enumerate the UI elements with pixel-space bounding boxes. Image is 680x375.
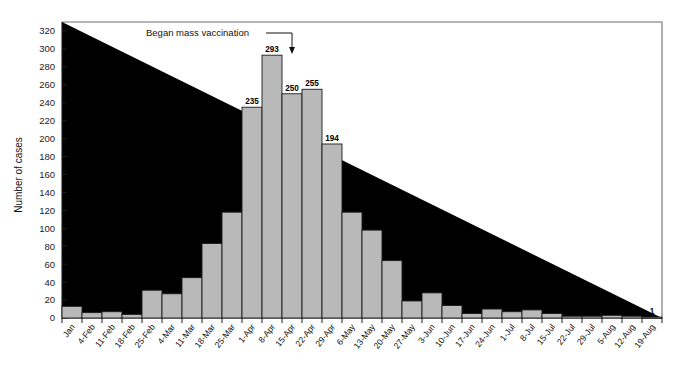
bar-value-label: 255	[305, 79, 319, 88]
bar	[182, 278, 202, 318]
x-axis-tick-labels: Jan4-Feb11-Feb18-Feb25-Feb4-Mar11-Mar18-…	[61, 322, 658, 351]
bar-value-label: 10	[487, 299, 497, 308]
bar	[542, 314, 562, 318]
bar-value-label: 45	[187, 268, 197, 277]
bar-value-label: 28	[427, 283, 437, 292]
bar	[142, 290, 162, 318]
bar-value-label: 83	[207, 234, 217, 243]
bar	[302, 89, 322, 318]
bar-value-label: 64	[387, 251, 397, 260]
bar-value-label: 250	[285, 84, 299, 93]
y-tick-label: 220	[39, 115, 55, 126]
bar-value-label: 7	[510, 302, 515, 311]
bar-value-label: 31	[147, 280, 157, 289]
bar-value-label: 2	[630, 306, 635, 315]
bar	[382, 261, 402, 318]
y-tick-label: 200	[39, 133, 55, 144]
y-tick-label: 160	[39, 169, 55, 180]
epidemic-curve-chart: 0204060801001201401601802002202402602803…	[0, 0, 680, 375]
bar	[502, 312, 522, 318]
x-tick-label: 25-Feb	[132, 322, 157, 350]
x-tick-label: 10-Jun	[433, 322, 457, 349]
bar-value-label: 235	[245, 97, 259, 106]
bar	[102, 312, 122, 318]
bar-value-label: 118	[225, 202, 239, 211]
bar-value-label: 293	[265, 45, 279, 54]
bar	[322, 144, 342, 318]
bar-value-label: 5	[550, 304, 555, 313]
y-tick-label: 140	[39, 187, 55, 198]
y-tick-label: 240	[39, 97, 55, 108]
chart-canvas: 0204060801001201401601802002202402602803…	[0, 0, 680, 375]
bar	[242, 107, 262, 318]
x-tick-label: 22-Apr	[293, 322, 317, 349]
x-tick-label: 19-Aug	[632, 322, 657, 350]
bar-value-label: 7	[110, 302, 115, 311]
bar	[82, 313, 102, 318]
bar	[602, 315, 622, 318]
bar	[442, 305, 462, 318]
bar-value-label: 5	[470, 304, 475, 313]
y-tick-label: 300	[39, 43, 55, 54]
x-tick-label: 15-Jul	[535, 322, 557, 347]
x-tick-label: Jan	[61, 322, 78, 339]
bar	[162, 294, 182, 318]
bar	[642, 317, 662, 318]
bar	[202, 244, 222, 318]
bar-value-label: 19	[407, 291, 417, 300]
y-tick-label: 180	[39, 151, 55, 162]
bar-value-label: 13	[67, 297, 77, 306]
y-tick-label: 100	[39, 223, 55, 234]
bar	[282, 94, 302, 318]
bar-value-label: 14	[447, 296, 457, 305]
bar-value-label: 9	[530, 300, 535, 309]
y-tick-label: 40	[44, 277, 55, 288]
bar	[622, 316, 642, 318]
bar	[422, 293, 442, 318]
bar	[362, 230, 382, 318]
bar	[562, 316, 582, 318]
bar-value-label: 2	[590, 306, 595, 315]
bar	[122, 314, 142, 318]
bar	[222, 212, 242, 318]
bar	[582, 316, 602, 318]
annotation-arrow-icon	[289, 47, 295, 54]
bar-value-label: 27	[167, 284, 177, 293]
x-tick-label: 22-Jul	[555, 322, 577, 347]
y-tick-label: 0	[50, 312, 55, 323]
y-tick-label: 20	[44, 294, 55, 305]
bar-value-label: 6	[90, 303, 95, 312]
bar	[522, 310, 542, 318]
y-tick-label: 260	[39, 79, 55, 90]
x-tick-label: 1-Jul	[498, 322, 517, 343]
y-tick-label: 60	[44, 259, 55, 270]
bar	[462, 314, 482, 318]
bar-value-label: 1	[650, 307, 655, 316]
bar-value-label: 194	[325, 134, 339, 143]
annotation-text: Began mass vaccination	[146, 27, 249, 38]
bar-value-label: 118	[345, 202, 359, 211]
y-tick-label: 280	[39, 61, 55, 72]
bar	[402, 301, 422, 318]
y-axis-title: Number of cases	[13, 137, 24, 213]
x-tick-label: 29-Apr	[313, 322, 337, 349]
bar-value-label: 3	[610, 306, 615, 315]
bar	[482, 309, 502, 318]
y-tick-label: 120	[39, 205, 55, 216]
x-tick-label: 17-Jun	[453, 322, 477, 349]
y-tick-label: 320	[39, 25, 55, 36]
bar	[262, 55, 282, 318]
x-tick-label: 27-May	[392, 322, 418, 351]
bar-value-label: 4	[130, 305, 135, 314]
bar-value-label: 98	[367, 220, 377, 229]
x-axis-ticks	[62, 318, 662, 323]
bar	[342, 212, 362, 318]
y-axis-title-group: Number of cases	[13, 137, 24, 213]
x-tick-label: 15-Apr	[273, 322, 297, 349]
bar-value-label: 2	[570, 306, 575, 315]
x-tick-label: 29-Jul	[575, 322, 597, 347]
x-tick-label: 1-Apr	[236, 322, 257, 345]
bar	[62, 306, 82, 318]
y-tick-label: 80	[44, 241, 55, 252]
x-tick-label: 25-Mar	[212, 322, 237, 350]
